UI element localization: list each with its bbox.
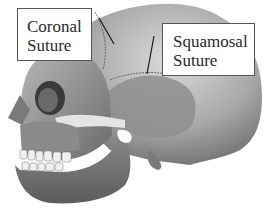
coronal-suture-label: Coronal Suture xyxy=(17,8,92,61)
skull-diagram: Coronal Suture Squamosal Suture xyxy=(0,0,268,211)
label-line: Coronal xyxy=(27,17,82,36)
squamosal-suture-label: Squamosal Suture xyxy=(162,23,255,76)
label-line: Suture xyxy=(173,51,244,70)
label-line: Squamosal xyxy=(173,32,244,51)
label-line: Suture xyxy=(27,36,82,55)
